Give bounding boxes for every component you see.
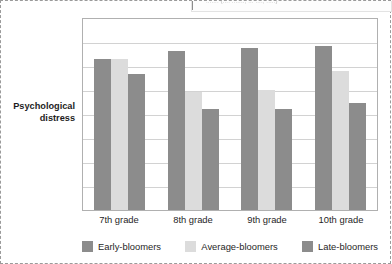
bar-late-bloomers (128, 74, 145, 210)
chart-legend: Early-bloomers Average-bloomers Late-blo… (82, 238, 382, 254)
bar-group (83, 19, 157, 210)
y-axis-label-text: Psychological distress (13, 101, 75, 123)
bar-early-bloomers (315, 46, 332, 210)
x-tick-label: 7th grade (82, 214, 156, 230)
legend-swatch-icon (302, 241, 313, 252)
x-tick-label: 8th grade (156, 214, 230, 230)
bar-average-bloomers (258, 90, 275, 210)
legend-item-average-bloomers: Average-bloomers (185, 241, 277, 252)
legend-item-late-bloomers: Late-bloomers (302, 241, 378, 252)
bar-group (304, 19, 378, 210)
y-axis-label: Psychological distress (9, 101, 75, 124)
fragment-text: ....... (.... ......., ... ...., .....) (206, 1, 278, 4)
legend-label: Late-bloomers (318, 241, 378, 252)
bar-average-bloomers (185, 92, 202, 210)
legend-item-early-bloomers: Early-bloomers (82, 241, 161, 252)
bar-early-bloomers (94, 59, 111, 210)
legend-swatch-icon (185, 241, 196, 252)
bar-average-bloomers (332, 71, 349, 210)
legend-label: Early-bloomers (98, 241, 161, 252)
bar-group (230, 19, 304, 210)
bar-late-bloomers (275, 109, 292, 210)
legend-label: Average-bloomers (201, 241, 277, 252)
bar-group (157, 19, 231, 210)
bar-late-bloomers (202, 109, 219, 210)
bar-late-bloomers (349, 103, 366, 210)
fragment-swatch (191, 1, 193, 10)
x-tick-label: 9th grade (230, 214, 304, 230)
x-axis-tick-labels: 7th grade 8th grade 9th grade 10th grade (82, 214, 378, 230)
plot-area (82, 18, 378, 211)
bar-early-bloomers (241, 48, 258, 210)
cropped-caption-fragment: ....... (.... ......., ... ...., .....) (191, 1, 392, 12)
bar-average-bloomers (111, 59, 128, 210)
x-tick-label: 10th grade (304, 214, 378, 230)
legend-swatch-icon (82, 241, 93, 252)
bar-early-bloomers (168, 51, 185, 210)
bar-groups (83, 19, 377, 210)
